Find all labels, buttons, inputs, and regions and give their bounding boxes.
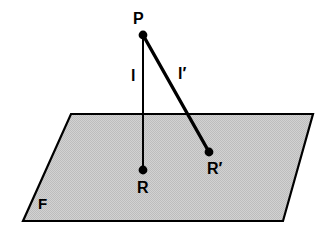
point-r-dot — [139, 166, 148, 175]
plane-f-shape — [23, 114, 313, 221]
point-r-label: R — [137, 180, 149, 196]
figure-canvas — [0, 0, 324, 239]
geometry-figure: P l l′ R R′ F — [0, 0, 324, 239]
segment-l-label: l — [131, 68, 135, 84]
point-r-prime-dot — [205, 148, 214, 157]
segment-l-prime-label: l′ — [178, 66, 186, 82]
point-p-label: P — [133, 11, 144, 27]
plane-f-label: F — [38, 196, 47, 211]
point-r-prime-label: R′ — [207, 161, 222, 177]
point-p-dot — [139, 31, 148, 40]
